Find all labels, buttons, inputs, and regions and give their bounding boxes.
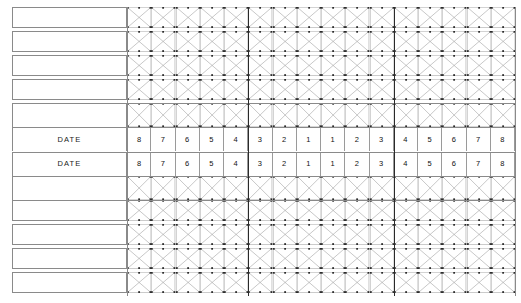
hatched-cell[interactable] (467, 176, 491, 200)
hatched-cell[interactable] (345, 31, 369, 52)
hatched-cell[interactable] (491, 7, 515, 28)
scale-number-cell[interactable]: 5 (200, 127, 224, 151)
hatched-cell[interactable] (370, 200, 394, 221)
hatched-cell[interactable] (127, 272, 151, 293)
hatched-cell[interactable] (467, 31, 491, 52)
hatched-cell[interactable] (418, 176, 442, 200)
hatched-cell[interactable] (370, 7, 394, 28)
hatched-cell[interactable] (345, 224, 369, 245)
hatched-cell[interactable] (297, 200, 321, 221)
hatched-cell[interactable] (370, 176, 394, 200)
hatched-cell[interactable] (394, 200, 418, 221)
scale-number-cell[interactable]: 2 (273, 127, 297, 151)
row-label-cell[interactable] (12, 55, 127, 76)
hatched-cell[interactable] (127, 200, 151, 221)
hatched-cell[interactable] (224, 55, 248, 76)
hatched-cell[interactable] (224, 224, 248, 245)
scale-number-cell[interactable]: 5 (418, 127, 442, 151)
hatched-cell[interactable] (176, 103, 200, 127)
scale-number-cell[interactable]: 4 (394, 127, 418, 151)
hatched-cell[interactable] (370, 103, 394, 127)
row-label-cell[interactable]: DATE (12, 152, 127, 176)
scale-number-cell[interactable]: 7 (151, 152, 175, 176)
hatched-cell[interactable] (321, 200, 345, 221)
hatched-cell[interactable] (176, 7, 200, 28)
row-label-cell[interactable] (12, 31, 127, 52)
hatched-cell[interactable] (248, 7, 272, 28)
hatched-cell[interactable] (418, 7, 442, 28)
hatched-cell[interactable] (467, 272, 491, 293)
hatched-cell[interactable] (345, 103, 369, 127)
hatched-cell[interactable] (200, 200, 224, 221)
hatched-cell[interactable] (467, 200, 491, 221)
hatched-cell[interactable] (127, 224, 151, 245)
hatched-cell[interactable] (224, 7, 248, 28)
hatched-cell[interactable] (442, 55, 466, 76)
row-label-cell[interactable]: DATE (12, 127, 127, 151)
hatched-cell[interactable] (442, 31, 466, 52)
scale-number-cell[interactable]: 7 (151, 127, 175, 151)
hatched-cell[interactable] (418, 55, 442, 76)
hatched-cell[interactable] (224, 103, 248, 127)
hatched-cell[interactable] (200, 79, 224, 100)
hatched-cell[interactable] (224, 248, 248, 269)
hatched-cell[interactable] (151, 103, 175, 127)
row-label-cell[interactable] (12, 79, 127, 100)
hatched-cell[interactable] (273, 200, 297, 221)
hatched-cell[interactable] (248, 248, 272, 269)
scale-number-cell[interactable]: 8 (491, 152, 515, 176)
hatched-cell[interactable] (200, 248, 224, 269)
scale-number-cell[interactable]: 6 (176, 127, 200, 151)
scale-number-cell[interactable]: 6 (176, 152, 200, 176)
hatched-cell[interactable] (467, 7, 491, 28)
hatched-cell[interactable] (273, 7, 297, 28)
hatched-cell[interactable] (370, 31, 394, 52)
scale-number-cell[interactable]: 1 (321, 152, 345, 176)
row-label-cell[interactable] (12, 7, 127, 28)
hatched-cell[interactable] (297, 55, 321, 76)
hatched-cell[interactable] (151, 200, 175, 221)
hatched-cell[interactable] (418, 200, 442, 221)
row-label-cell[interactable] (12, 103, 127, 127)
scale-number-cell[interactable]: 4 (394, 152, 418, 176)
hatched-cell[interactable] (176, 55, 200, 76)
hatched-cell[interactable] (394, 7, 418, 28)
scale-number-cell[interactable]: 4 (224, 127, 248, 151)
hatched-cell[interactable] (176, 176, 200, 200)
hatched-cell[interactable] (442, 79, 466, 100)
hatched-cell[interactable] (151, 224, 175, 245)
scale-number-cell[interactable]: 6 (442, 152, 466, 176)
hatched-cell[interactable] (418, 31, 442, 52)
hatched-cell[interactable] (345, 272, 369, 293)
hatched-cell[interactable] (248, 200, 272, 221)
hatched-cell[interactable] (151, 272, 175, 293)
hatched-cell[interactable] (370, 79, 394, 100)
hatched-cell[interactable] (151, 7, 175, 28)
hatched-cell[interactable] (297, 272, 321, 293)
hatched-cell[interactable] (442, 248, 466, 269)
hatched-cell[interactable] (273, 79, 297, 100)
scale-number-cell[interactable]: 4 (224, 152, 248, 176)
hatched-cell[interactable] (345, 79, 369, 100)
hatched-cell[interactable] (370, 224, 394, 245)
hatched-cell[interactable] (442, 103, 466, 127)
hatched-cell[interactable] (297, 248, 321, 269)
hatched-cell[interactable] (224, 31, 248, 52)
hatched-cell[interactable] (442, 200, 466, 221)
hatched-cell[interactable] (273, 176, 297, 200)
hatched-cell[interactable] (176, 200, 200, 221)
hatched-cell[interactable] (273, 55, 297, 76)
hatched-cell[interactable] (321, 224, 345, 245)
scale-number-cell[interactable]: 8 (127, 152, 151, 176)
hatched-cell[interactable] (273, 31, 297, 52)
hatched-cell[interactable] (151, 79, 175, 100)
hatched-cell[interactable] (442, 272, 466, 293)
hatched-cell[interactable] (297, 176, 321, 200)
hatched-cell[interactable] (394, 176, 418, 200)
hatched-cell[interactable] (345, 7, 369, 28)
hatched-cell[interactable] (200, 7, 224, 28)
hatched-cell[interactable] (345, 248, 369, 269)
hatched-cell[interactable] (491, 248, 515, 269)
hatched-cell[interactable] (248, 224, 272, 245)
hatched-cell[interactable] (248, 79, 272, 100)
